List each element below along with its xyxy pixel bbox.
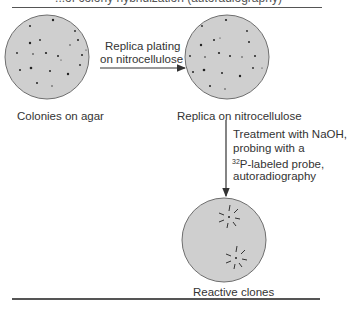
isotope-mass: 32 (232, 158, 240, 165)
agar-label: Colonies on agar (17, 109, 104, 123)
probe-step-line-1: Treatment with NaOH, (233, 127, 347, 141)
agar-plate (5, 15, 89, 99)
nitrocellulose-plate (185, 15, 269, 99)
reactive-label: Reactive clones (193, 285, 274, 299)
probe-step-line-2: probing with a (233, 141, 305, 155)
replica-step-line-1: Replica plating (105, 39, 180, 53)
probe-step-line-4: autoradiography (233, 169, 316, 183)
replica-step-line-2: on nitrocellulose (100, 52, 183, 66)
bottom-rule (12, 298, 320, 300)
nitrocellulose-label: Replica on nitrocellulose (177, 109, 302, 123)
reactive-plate (182, 198, 266, 282)
